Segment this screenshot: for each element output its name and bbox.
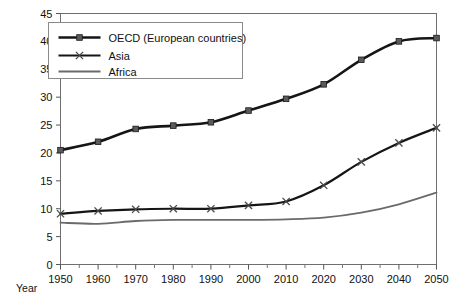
y-tick-label: 10 [40,203,52,215]
chart-svg: 0510152025303540451950196019701980199020… [0,0,449,308]
y-tick-label: 15 [40,175,52,187]
x-tick-label: 1960 [86,273,110,285]
x-axis: 1950196019701980199020002010202020302040… [48,265,448,285]
x-tick-label: 1990 [199,273,223,285]
y-tick-label: 25 [40,119,52,131]
y-tick-label: 5 [46,231,52,243]
y-tick-label: 45 [40,8,52,20]
x-tick-label: 2030 [349,273,373,285]
legend-label: Africa [109,66,138,78]
x-tick-label: 2040 [387,273,411,285]
x-tick-label: 2020 [311,273,335,285]
data-point-marker [246,108,252,114]
y-tick-label: 0 [46,259,52,271]
x-tick-label: 2050 [424,273,448,285]
legend-label: OECD (European countries) [109,32,247,44]
y-tick-label: 20 [40,147,52,159]
legend: OECD (European countries)AsiaAfrica [49,23,247,79]
data-point-marker [133,126,139,132]
x-tick-label: 1950 [48,273,72,285]
x-tick-label: 2000 [236,273,260,285]
data-point-marker [396,39,402,45]
data-point-marker [171,123,177,129]
x-tick-label: 2010 [274,273,298,285]
legend-label: Asia [109,50,131,62]
line-chart: 0510152025303540451950196019701980199020… [0,0,449,308]
x-tick-label: 1970 [123,273,147,285]
data-point-marker [283,96,289,102]
x-axis-title: Year [16,282,38,294]
y-tick-label: 30 [40,91,52,103]
legend-marker-square-icon [77,35,83,41]
data-point-marker [95,139,101,145]
data-point-marker [321,82,327,88]
data-point-marker [208,119,214,125]
data-point-marker [359,57,365,63]
x-tick-label: 1980 [161,273,185,285]
data-point-marker [434,35,440,41]
chart-container: 0510152025303540451950196019701980199020… [0,0,449,308]
data-point-marker [58,147,64,153]
